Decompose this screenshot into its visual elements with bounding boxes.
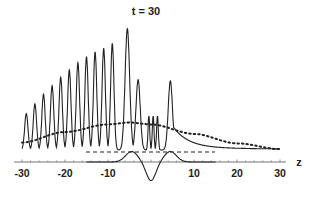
tick-label: 30 [274, 167, 286, 179]
tick-label: -20 [57, 167, 72, 179]
x-axis-label: z [296, 156, 302, 168]
tick-label: 10 [188, 167, 200, 179]
chart-canvas: t = 30 -30 -20 -10 10 20 30 z [0, 0, 312, 197]
tick-label: -10 [100, 167, 115, 179]
x-axis-tick-labels: -30 -20 -10 10 20 30 [14, 167, 286, 179]
tick-label: 20 [231, 167, 243, 179]
tick-label: -30 [14, 167, 29, 179]
chart-title: t = 30 [132, 5, 160, 17]
